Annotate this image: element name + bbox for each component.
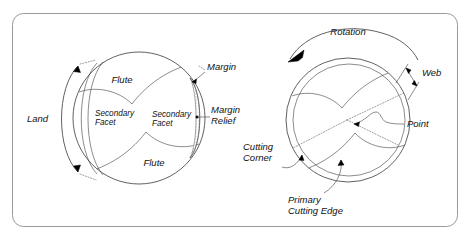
label-flute-top: Flute — [111, 74, 132, 85]
primary-cutting-edge-callout — [324, 160, 344, 193]
drill-point-end-view: Rotation Web Point Cutting Corner Primar… — [243, 26, 441, 216]
drill-point-side-view: Land Flute Flute Secondary Facet Seconda… — [27, 52, 240, 184]
web-dimension — [396, 64, 419, 100]
label-secondary-facet-right-1: Secondary — [152, 110, 192, 119]
label-primary-cutting-edge-2: Cutting Edge — [288, 205, 343, 216]
flute-outlines-end — [291, 68, 406, 173]
margin-relief-callout — [196, 116, 211, 119]
margin-callout — [192, 66, 205, 84]
label-secondary-facet-left-1: Secondary — [95, 109, 135, 118]
cutting-corner-callout — [282, 155, 304, 168]
label-margin-relief-2: Relief — [211, 115, 237, 126]
label-land: Land — [27, 113, 49, 124]
label-point: Point — [407, 118, 429, 129]
label-primary-facet-lower: Primary Facet — [96, 122, 142, 155]
label-cutting-corner-2: Corner — [243, 152, 273, 163]
figure-canvas: Land Flute Flute Secondary Facet Seconda… — [0, 0, 470, 239]
label-margin-relief-1: Margin — [211, 104, 240, 115]
facet-intersection-dotted — [293, 93, 404, 148]
label-primary-facet-upper: Primary Facet — [146, 77, 192, 110]
label-margin: Margin — [207, 61, 236, 72]
label-primary-cutting-edge-1: Primary — [288, 194, 322, 205]
label-flute-bottom: Flute — [143, 157, 164, 168]
drill-body-outline-end — [286, 58, 410, 182]
label-cutting-corner-1: Cutting — [243, 141, 274, 152]
label-web: Web — [422, 67, 441, 78]
label-secondary-facet-right-2: Facet — [152, 119, 173, 128]
label-secondary-facet-left-2: Facet — [95, 118, 116, 127]
label-rotation: Rotation — [330, 26, 365, 37]
point-callout — [354, 112, 404, 127]
margin-circle-end — [293, 64, 405, 176]
land-dimension-arc — [62, 60, 97, 180]
